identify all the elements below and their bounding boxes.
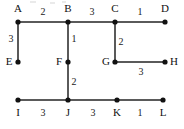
graph-node-i: [15, 97, 20, 102]
graph-node-j: [65, 97, 70, 102]
node-label-f: F: [52, 56, 66, 67]
node-label-b: B: [61, 3, 75, 14]
node-label-i: I: [11, 107, 25, 118]
edge-layer: [18, 22, 165, 100]
graph-node-d: [162, 19, 167, 24]
edge-weight-gh: 3: [135, 67, 147, 77]
edge-weight-ae: 3: [5, 34, 17, 44]
edge-weight-bc: 3: [86, 7, 98, 17]
node-label-e: E: [2, 56, 16, 67]
graph-node-e: [15, 59, 20, 64]
graph-node-g: [112, 59, 117, 64]
node-layer: [15, 19, 167, 102]
node-label-h: H: [167, 56, 181, 67]
node-label-c: C: [108, 3, 122, 14]
node-label-g: G: [99, 56, 113, 67]
graph-node-l: [160, 97, 165, 102]
node-label-j: J: [61, 107, 75, 118]
node-label-a: A: [11, 3, 25, 14]
node-label-d: D: [158, 3, 172, 14]
node-label-k: K: [110, 107, 124, 118]
graph-node-f: [65, 59, 70, 64]
edge-weight-fj: 2: [68, 77, 80, 87]
edge-weight-bf: 1: [68, 34, 80, 44]
edge-weight-ab: 2: [37, 7, 49, 17]
edge-weight-ij: 3: [37, 108, 49, 118]
graph-node-k: [114, 97, 119, 102]
node-label-l: L: [156, 107, 170, 118]
edge-weight-jk: 3: [87, 108, 99, 118]
graph-node-b: [65, 19, 70, 24]
edge-weight-cg: 2: [115, 37, 127, 47]
graph-diagram: ABCDEFGHIJKL 23131232331: [0, 0, 184, 129]
graph-node-c: [112, 19, 117, 24]
edge-weight-cd: 1: [134, 7, 146, 17]
edge-weight-kl: 1: [134, 108, 146, 118]
graph-node-a: [15, 19, 20, 24]
